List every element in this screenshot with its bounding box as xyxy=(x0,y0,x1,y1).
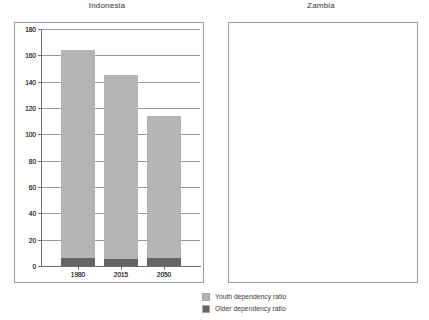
bar-segment-youth-zambia-1980 xyxy=(61,50,95,258)
xtick-mark-zambia-2015 xyxy=(121,266,122,270)
panel-title-indonesia: Indonesia xyxy=(0,1,214,10)
ytick-label-zambia-60: 60 xyxy=(29,184,36,191)
xtick-label-zambia-2050: 2050 xyxy=(144,271,184,278)
y-axis-zambia xyxy=(41,29,42,266)
panel-title-zambia: Zambia xyxy=(214,1,428,10)
legend-swatch-older-icon xyxy=(202,305,210,313)
ytick-label-zambia-40: 40 xyxy=(29,210,36,217)
legend-swatch-youth-icon xyxy=(202,293,210,301)
xtick-mark-zambia-2050 xyxy=(164,266,165,270)
bar-segment-older-zambia-1980 xyxy=(61,258,95,266)
panel-zambia: Zambia xyxy=(214,0,428,290)
xtick-label-zambia-2015: 2015 xyxy=(101,271,141,278)
ytick-label-zambia-0: 0 xyxy=(32,263,36,270)
bar-zambia-2050 xyxy=(147,29,181,266)
ytick-label-zambia-180: 180 xyxy=(25,26,36,33)
xtick-mark-zambia-1980 xyxy=(78,266,79,270)
bar-segment-youth-zambia-2050 xyxy=(147,116,181,258)
ytick-label-zambia-140: 140 xyxy=(25,78,36,85)
legend-item-youth: Youth dependency ratio xyxy=(202,292,286,301)
bar-segment-older-zambia-2050 xyxy=(147,258,181,266)
chart-legend: Youth dependency ratio Older dependency … xyxy=(202,292,286,313)
ytick-label-zambia-20: 20 xyxy=(29,236,36,243)
xtick-label-zambia-1980: 1980 xyxy=(58,271,98,278)
legend-label-youth: Youth dependency ratio xyxy=(215,293,286,300)
legend-label-older: Older dependency ratio xyxy=(215,305,286,312)
bar-segment-older-zambia-2015 xyxy=(104,259,138,266)
plot-inner-zambia: 180160140120100806040200198020152050 xyxy=(42,29,200,266)
ytick-label-zambia-100: 100 xyxy=(25,131,36,138)
bar-segment-youth-zambia-2015 xyxy=(104,75,138,259)
ytick-label-zambia-160: 160 xyxy=(25,52,36,59)
axes-frame-zambia xyxy=(228,22,418,283)
dependency-ratio-figure: Indonesia 180160140120100806040200198020… xyxy=(0,0,429,320)
legend-item-older: Older dependency ratio xyxy=(202,304,286,313)
ytick-label-zambia-120: 120 xyxy=(25,105,36,112)
ytick-label-zambia-80: 80 xyxy=(29,157,36,164)
bar-zambia-1980 xyxy=(61,29,95,266)
bar-zambia-2015 xyxy=(104,29,138,266)
plot-area-zambia: 180160140120100806040200198020152050 xyxy=(42,29,200,266)
